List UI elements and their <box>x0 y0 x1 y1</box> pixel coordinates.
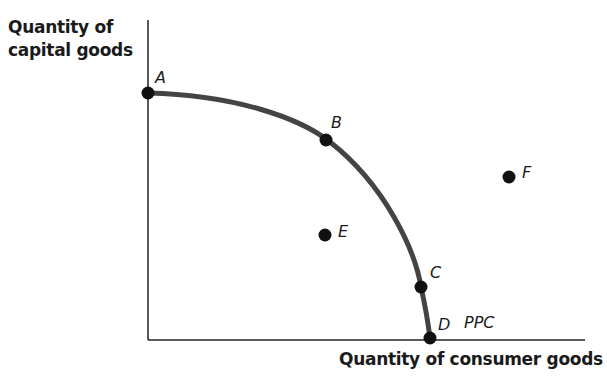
label-f: F <box>522 163 531 182</box>
ppc-label: PPC <box>464 313 494 332</box>
point-e <box>319 229 332 242</box>
point-a <box>142 87 155 100</box>
y-axis-label-line1: Quantity of <box>8 16 133 39</box>
label-b: B <box>331 113 342 132</box>
ppc-curve <box>148 93 430 338</box>
label-d: D <box>438 315 450 334</box>
point-b <box>320 134 333 147</box>
point-f <box>503 171 516 184</box>
label-e: E <box>338 222 348 241</box>
point-d <box>424 332 437 345</box>
point-c <box>415 281 428 294</box>
y-axis-label-line2: capital goods <box>8 39 133 62</box>
y-axis-label: Quantity of capital goods <box>8 16 133 62</box>
x-axis-label: Quantity of consumer goods <box>339 349 603 369</box>
label-c: C <box>430 263 441 282</box>
label-a: A <box>155 68 166 87</box>
